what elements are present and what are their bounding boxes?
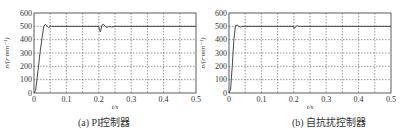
- y-tick-label: 500: [20, 22, 32, 31]
- y-tick-label: 300: [20, 49, 32, 58]
- y-tick-label: 500: [215, 22, 227, 31]
- y-tick-label: 400: [20, 35, 32, 44]
- y-tick-label: 100: [215, 75, 227, 84]
- y-tick-label: 200: [20, 62, 32, 71]
- grid: [34, 13, 196, 93]
- x-tick-label: 0.4: [354, 95, 364, 104]
- y-axis-label: n/(r·min⁻¹): [3, 37, 11, 69]
- caption-a: (a) PI控制器: [78, 114, 131, 129]
- x-tick-label: 0.5: [386, 95, 396, 104]
- x-tick-label: 0.1: [61, 95, 71, 104]
- x-tick-label: 0: [32, 95, 36, 104]
- y-tick-label: 200: [215, 62, 227, 71]
- x-tick-label: 0.2: [94, 95, 104, 104]
- x-tick-label: 0.3: [321, 95, 331, 104]
- chart-b: 010020030040050060000.10.20.30.40.5t/sn/…: [199, 9, 396, 112]
- x-tick-label: 0.1: [256, 95, 266, 104]
- y-tick-label: 400: [215, 35, 227, 44]
- y-tick-label: 100: [20, 75, 32, 84]
- y-axis-label: n/(r·min⁻¹): [199, 37, 207, 69]
- y-tick-label: 600: [215, 9, 227, 18]
- grid: [229, 13, 391, 93]
- x-tick-label: 0.5: [191, 95, 201, 104]
- y-tick-label: 600: [20, 9, 32, 18]
- x-tick-label: 0.2: [289, 95, 299, 104]
- x-tick-label: 0: [227, 95, 231, 104]
- y-tick-label: 300: [215, 49, 227, 58]
- x-axis-label: t/s: [307, 103, 314, 111]
- x-tick-label: 0.3: [126, 95, 136, 104]
- chart-a: 010020030040050060000.10.20.30.40.5t/sn/…: [3, 9, 201, 112]
- x-axis-label: t/s: [112, 103, 119, 111]
- caption-b: (b) 自抗扰控制器: [292, 114, 366, 129]
- x-tick-label: 0.4: [159, 95, 169, 104]
- chart-canvas: 010020030040050060000.10.20.30.40.5t/sn/…: [0, 0, 402, 132]
